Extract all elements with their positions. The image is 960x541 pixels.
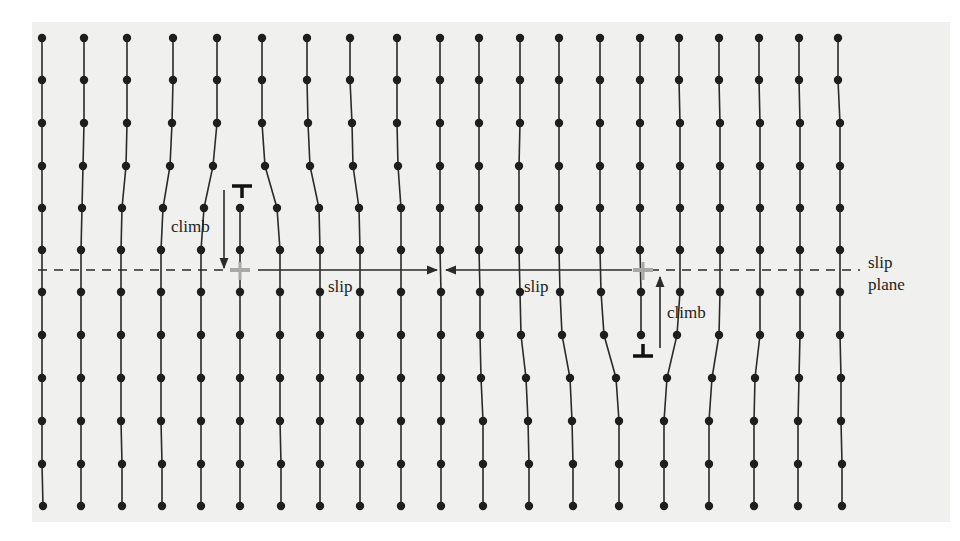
atom: [676, 288, 684, 296]
atom: [356, 288, 364, 296]
atom: [705, 502, 713, 510]
atom: [615, 417, 623, 425]
atom: [209, 162, 217, 170]
atom: [555, 246, 563, 254]
atomic-plane-c10: [397, 38, 401, 506]
atom: [166, 162, 174, 170]
atom: [118, 460, 126, 468]
atom: [437, 417, 445, 425]
slip-plane-label-line2: plane: [868, 275, 905, 294]
atom: [38, 460, 46, 468]
atom: [516, 119, 524, 127]
atom: [355, 204, 363, 212]
atom: [277, 502, 285, 510]
atom: [475, 204, 483, 212]
atom: [346, 34, 354, 42]
atom: [38, 246, 46, 254]
atomic-plane-c13: [519, 38, 529, 506]
atom: [236, 331, 244, 339]
atom: [715, 331, 723, 339]
atom: [796, 331, 804, 339]
atom: [213, 119, 221, 127]
atom: [236, 288, 244, 296]
atom: [436, 76, 444, 84]
atom: [197, 502, 205, 510]
atom: [516, 34, 524, 42]
atom: [596, 204, 604, 212]
atom: [158, 502, 166, 510]
atom: [273, 204, 281, 212]
atom: [569, 502, 577, 510]
atomic-plane-c2: [81, 38, 84, 506]
atom: [716, 288, 724, 296]
atom: [555, 162, 563, 170]
atom: [756, 162, 764, 170]
atom: [837, 417, 845, 425]
atom: [756, 288, 764, 296]
atom: [38, 288, 46, 296]
atom: [80, 119, 88, 127]
atomic-plane-c14: [559, 38, 573, 506]
atom: [356, 374, 364, 382]
atom: [479, 460, 487, 468]
atom: [476, 331, 484, 339]
atom: [316, 460, 324, 468]
atom: [636, 119, 644, 127]
atom: [356, 502, 364, 510]
atom: [397, 288, 405, 296]
atom: [276, 288, 284, 296]
atom: [77, 331, 85, 339]
atom: [524, 417, 532, 425]
atom: [123, 76, 131, 84]
atom: [316, 417, 324, 425]
atom: [118, 502, 126, 510]
atom: [796, 162, 804, 170]
atom: [316, 331, 324, 339]
atomic-plane-c18: [709, 38, 720, 506]
atom: [636, 204, 644, 212]
atom: [756, 204, 764, 212]
atomic-plane-c8: [307, 38, 320, 506]
atom: [303, 76, 311, 84]
atom: [525, 460, 533, 468]
atom: [834, 34, 842, 42]
atom: [38, 417, 46, 425]
atomic-plane-c15: [600, 38, 619, 506]
atom: [200, 204, 208, 212]
dislocation-symbol-top-left: [232, 186, 252, 198]
atom: [117, 417, 125, 425]
atom: [258, 119, 266, 127]
atom: [437, 374, 445, 382]
atom: [397, 246, 405, 254]
atom: [796, 288, 804, 296]
atom: [79, 162, 87, 170]
atom: [596, 162, 604, 170]
atom: [276, 374, 284, 382]
atom: [159, 204, 167, 212]
atom: [236, 460, 244, 468]
atom: [77, 417, 85, 425]
atom: [316, 246, 324, 254]
atom: [597, 288, 605, 296]
atom: [197, 288, 205, 296]
atom: [750, 502, 758, 510]
atom: [168, 119, 176, 127]
atom: [796, 119, 804, 127]
atom: [675, 34, 683, 42]
atom: [715, 34, 723, 42]
atom: [118, 204, 126, 212]
atom: [515, 204, 523, 212]
slip-label-left: slip: [328, 277, 353, 296]
atom: [316, 374, 324, 382]
atom: [796, 246, 804, 254]
atom: [716, 119, 724, 127]
atom: [596, 76, 604, 84]
atom: [715, 76, 723, 84]
atom: [794, 460, 802, 468]
atom: [122, 162, 130, 170]
atom: [437, 502, 445, 510]
atom: [393, 34, 401, 42]
atom: [475, 246, 483, 254]
atom: [349, 162, 357, 170]
atom: [213, 76, 221, 84]
